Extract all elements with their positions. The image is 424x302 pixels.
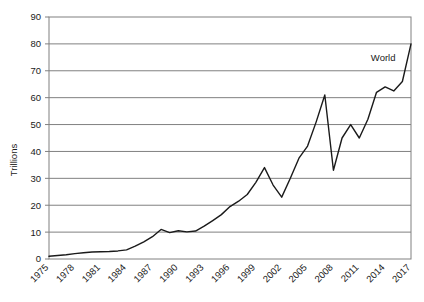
chart-canvas: 0102030405060708090 19751978198119841987… bbox=[0, 0, 424, 302]
x-axis-tick-label: 2014 bbox=[364, 262, 387, 285]
y-axis-tick-label: 20 bbox=[30, 200, 41, 211]
y-axis-tick-marks bbox=[45, 17, 49, 259]
y-axis-tick-label: 50 bbox=[30, 119, 41, 130]
y-axis-title: Trillions bbox=[8, 144, 19, 177]
y-axis-tick-label: 60 bbox=[30, 92, 41, 103]
x-axis-tick-label: 1984 bbox=[105, 262, 128, 285]
line-chart: 0102030405060708090 19751978198119841987… bbox=[0, 0, 424, 302]
x-axis-tick-label: 2017 bbox=[390, 262, 413, 285]
x-axis-tick-label: 1981 bbox=[79, 262, 102, 285]
x-axis-tick-label: 1990 bbox=[157, 262, 180, 285]
x-axis-tick-label: 2002 bbox=[260, 262, 283, 285]
x-axis-tick-label: 1978 bbox=[54, 262, 77, 285]
x-axis-tick-label: 1996 bbox=[209, 262, 232, 285]
series-annotation-world: World bbox=[371, 52, 396, 63]
x-axis-tick-label: 2011 bbox=[338, 262, 360, 284]
y-axis-tick-label: 90 bbox=[30, 11, 41, 22]
y-axis-tick-label: 70 bbox=[30, 65, 41, 76]
x-axis-tick-label: 2005 bbox=[286, 262, 309, 285]
y-axis-tick-labels: 0102030405060708090 bbox=[30, 11, 41, 264]
x-axis-tick-label: 1987 bbox=[131, 262, 154, 285]
x-axis-tick-labels: 1975197819811984198719901993199619992002… bbox=[28, 262, 413, 285]
plot-area-background bbox=[49, 17, 411, 259]
y-axis-tick-label: 40 bbox=[30, 146, 41, 157]
y-axis-tick-label: 80 bbox=[30, 38, 41, 49]
y-axis-tick-label: 10 bbox=[30, 227, 41, 238]
x-axis-tick-label: 1999 bbox=[235, 262, 258, 285]
x-axis-tick-label: 2008 bbox=[312, 262, 335, 285]
x-axis-tick-label: 1993 bbox=[183, 262, 206, 285]
x-axis-tick-label: 1975 bbox=[28, 262, 51, 285]
y-axis-tick-label: 30 bbox=[30, 173, 41, 184]
